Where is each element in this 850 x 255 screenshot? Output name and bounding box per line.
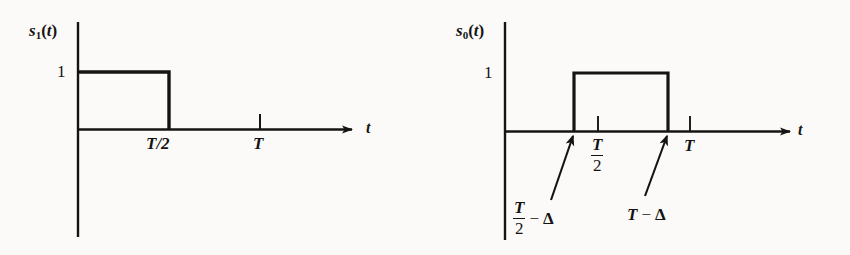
left-x-tick-label-T: T (253, 135, 263, 152)
annotation-minus-operator: − (529, 210, 539, 227)
right-pulse-waveform (574, 73, 668, 132)
annotation-minus-operator-2: − (641, 206, 651, 223)
annotation-delta-symbol-2: Δ (655, 206, 666, 223)
annotation-delta-symbol: Δ (543, 210, 554, 227)
left-x-axis-variable-label: t (366, 120, 370, 136)
right-x-tick-label-T: T (684, 137, 694, 154)
annotation-arrow-fall-edge (645, 136, 667, 196)
right-x-tick-label-T-over-2: T2 (591, 136, 603, 174)
annotation-fraction-denominator: 2 (513, 219, 525, 238)
annotation-fraction-numerator: T (513, 199, 525, 219)
right-y-tick-label-1: 1 (484, 64, 493, 81)
right-pulse-path (574, 73, 668, 132)
left-signal-axis-label: s1(t) (29, 22, 57, 41)
right-annotation-arrows (551, 136, 667, 200)
left-pulse-path (78, 72, 169, 130)
fraction-denominator: 2 (591, 156, 603, 175)
annotation-label-rise-edge: T2 − Δ (513, 199, 554, 237)
signal-waveform-figure: s1(t) 1 T/2 T t s0(t) 1 T2 T t T2 − Δ T … (0, 0, 850, 255)
annotation-arrow-rise-edge (551, 136, 573, 200)
annotation-T-symbol: T (627, 206, 637, 223)
annotation-fraction-T-over-2: T2 (513, 199, 525, 237)
fraction-numerator: T (591, 136, 603, 156)
waveform-vector-graphics (0, 0, 850, 255)
left-panel-axes (78, 22, 352, 237)
fraction-T-over-2: T2 (591, 136, 603, 174)
right-signal-axis-label: s0(t) (456, 22, 484, 41)
left-y-tick-label-1: 1 (57, 63, 66, 80)
left-pulse-waveform (78, 72, 169, 130)
left-x-tick-label-T-over-2: T/2 (146, 135, 170, 152)
right-x-axis-variable-label: t (798, 122, 802, 138)
annotation-label-fall-edge: T − Δ (627, 206, 666, 223)
